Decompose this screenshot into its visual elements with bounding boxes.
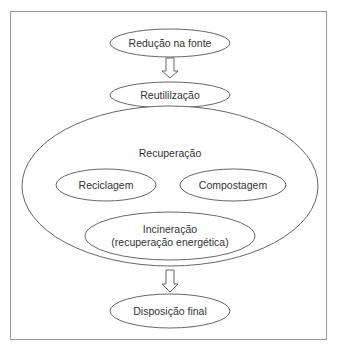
node-reuse: Reutililzação — [110, 82, 230, 108]
node-label-line1: Incineração — [143, 223, 197, 235]
node-composting: Compostagem — [180, 169, 286, 201]
node-label: Reciclagem — [79, 179, 134, 191]
node-source-reduction: Redução na fonte — [110, 29, 230, 57]
node-label: Compostagem — [199, 179, 268, 191]
node-label: Disposição final — [133, 305, 207, 317]
node-label-line2: (recuperação energética) — [111, 236, 228, 248]
node-recovery: Recuperação Reciclagem Compostagem Incin… — [22, 106, 318, 266]
node-label: Reutililzação — [140, 89, 200, 101]
node-recycling: Reciclagem — [56, 169, 156, 201]
diagram-canvas: Redução na fonte Reutililzação Recuperaç… — [0, 0, 340, 350]
node-label: Redução na fonte — [129, 37, 212, 49]
node-label: Recuperação — [139, 147, 202, 159]
node-incineration: Incineração (recuperação energética) — [85, 212, 255, 260]
node-final-disposal: Disposição final — [110, 294, 230, 328]
